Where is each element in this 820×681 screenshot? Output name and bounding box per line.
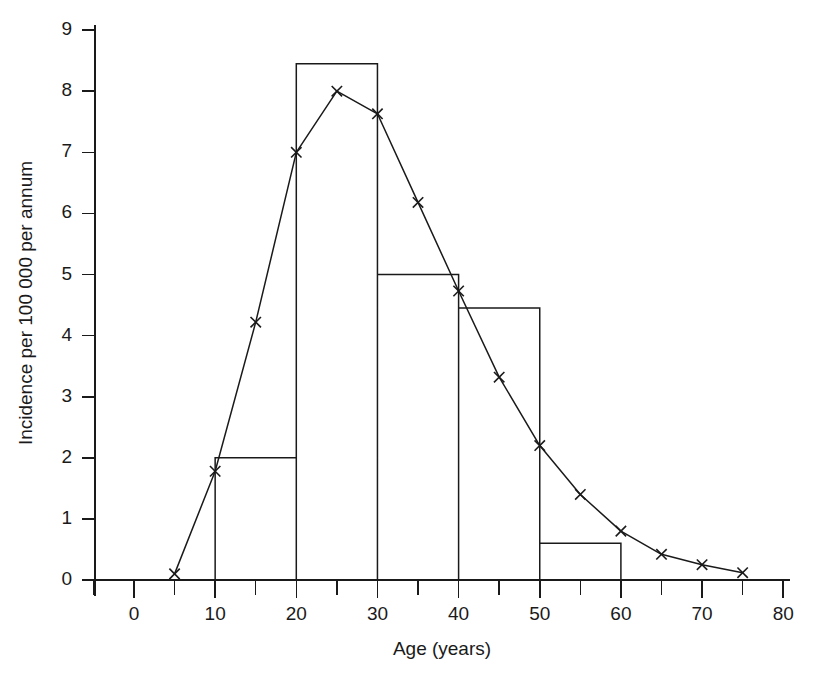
y-tick-label: 0 xyxy=(61,568,72,589)
incidence-age-chart: 0123456789 01020304050607080 Incidence p… xyxy=(0,0,820,681)
y-tick-label: 1 xyxy=(61,507,72,528)
y-tick-label: 5 xyxy=(61,263,72,284)
data-point-marker xyxy=(616,526,626,536)
y-tick-label: 4 xyxy=(61,324,72,345)
x-tick-label: 40 xyxy=(448,603,469,624)
y-tick-label: 8 xyxy=(61,79,72,100)
y-tick-label: 7 xyxy=(61,140,72,161)
x-tick-label: 50 xyxy=(529,603,550,624)
data-point-marker xyxy=(169,569,179,579)
x-tick-label: 60 xyxy=(610,603,631,624)
y-tick-label: 2 xyxy=(61,446,72,467)
x-tick-label: 70 xyxy=(691,603,712,624)
y-axis-ticks xyxy=(82,30,95,580)
data-point-marker xyxy=(656,549,666,559)
x-tick-label: 30 xyxy=(367,603,388,624)
x-axis-ticks-major xyxy=(134,580,783,598)
chart-canvas: 0123456789 01020304050607080 Incidence p… xyxy=(0,0,820,681)
y-tick-label: 9 xyxy=(61,18,72,39)
data-point-marker xyxy=(413,197,423,207)
data-point-marker xyxy=(494,372,504,382)
x-axis-tick-labels: 01020304050607080 xyxy=(129,603,794,624)
x-tick-label: 10 xyxy=(205,603,226,624)
data-point-marker xyxy=(575,489,585,499)
x-axis-ticks-minor xyxy=(93,580,742,596)
x-tick-label: 0 xyxy=(129,603,140,624)
data-point-marker xyxy=(332,86,342,96)
y-axis-title: Incidence per 100 000 per annum xyxy=(15,161,36,445)
data-point-marker xyxy=(251,317,261,327)
histogram-bars xyxy=(215,64,621,580)
x-tick-label: 80 xyxy=(773,603,794,624)
x-axis-title: Age (years) xyxy=(393,638,491,659)
y-tick-label: 6 xyxy=(61,201,72,222)
x-tick-label: 20 xyxy=(286,603,307,624)
y-axis-tick-labels: 0123456789 xyxy=(61,18,72,589)
y-tick-label: 3 xyxy=(61,385,72,406)
